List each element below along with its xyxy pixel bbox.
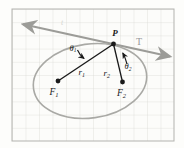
point-p-dot xyxy=(111,42,116,47)
label-tangent-t: T xyxy=(136,36,142,47)
figure-ellipse-reflection: t P T θ1 θ2 r1 r2 F1 F2 xyxy=(0,0,184,148)
focus-f1-dot xyxy=(56,79,61,84)
diagram-canvas: t P T θ1 θ2 r1 r2 F1 F2 xyxy=(0,0,184,148)
focus-f2-dot xyxy=(120,80,125,85)
label-point-p: P xyxy=(112,28,118,38)
graph-grid xyxy=(12,9,174,141)
